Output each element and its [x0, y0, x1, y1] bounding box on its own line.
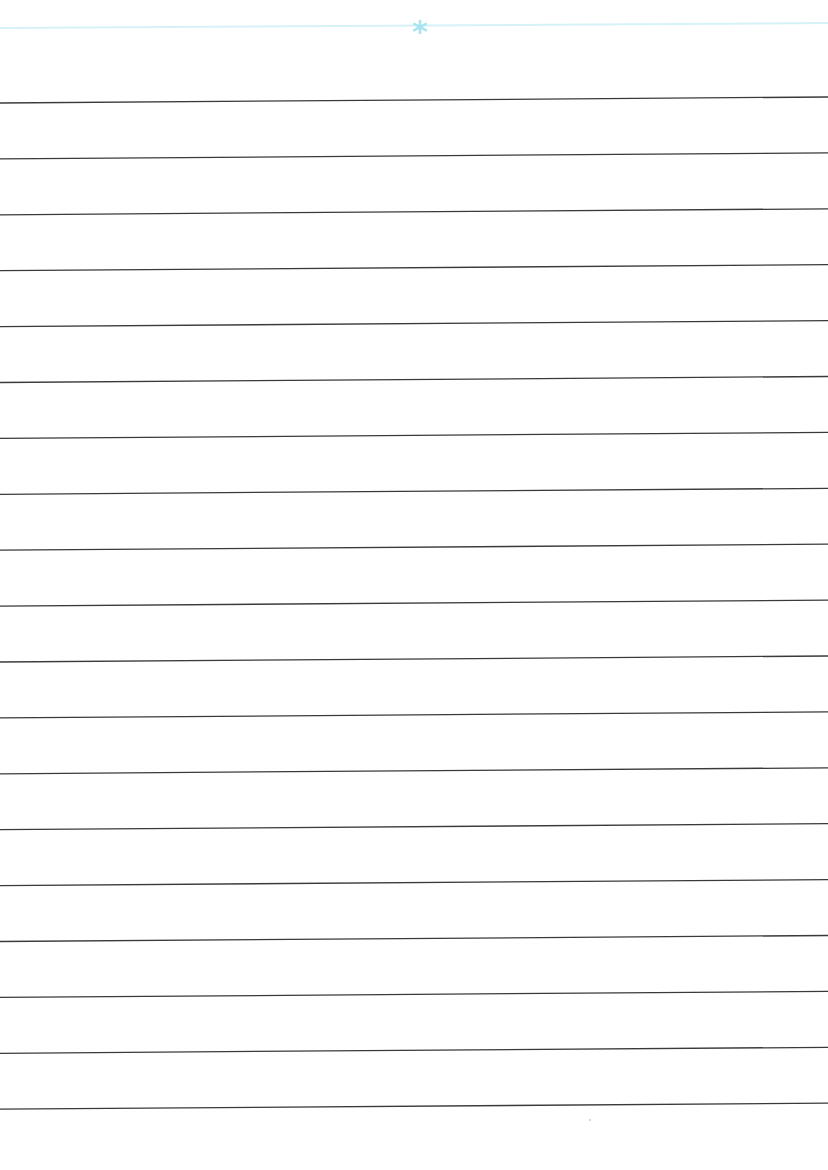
ruled-line: [0, 321, 828, 327]
ruled-line: [0, 153, 828, 159]
ruled-line: [0, 936, 828, 942]
ruled-line: [0, 377, 828, 383]
ruled-line: [0, 656, 828, 662]
ruled-line: [0, 488, 828, 494]
ruled-line: [0, 209, 828, 215]
ruled-line: [0, 1047, 828, 1053]
header-asterisk-icon: *: [412, 14, 428, 49]
ruled-line: [0, 880, 828, 886]
ruled-line: [0, 768, 828, 774]
ruled-line: [0, 1103, 828, 1109]
ruled-line: [0, 97, 828, 103]
ruled-line: [0, 712, 828, 718]
ruled-line: [0, 432, 828, 438]
ruled-line: [0, 600, 828, 606]
ruled-lines: [0, 97, 828, 1109]
ruled-line: [0, 544, 828, 550]
ruled-line: [0, 265, 828, 271]
ruled-line: [0, 824, 828, 830]
ruled-line: [0, 991, 828, 997]
speck: [589, 1119, 591, 1121]
paper-canvas: *: [0, 0, 828, 1170]
